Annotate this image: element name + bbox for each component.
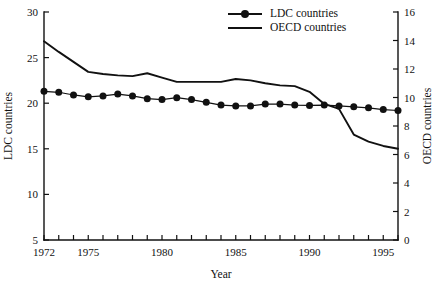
- y-tick-label-right: 8: [404, 120, 410, 132]
- x-tick-label: 1995: [372, 246, 395, 258]
- y-tick-label-left: 5: [33, 234, 39, 246]
- legend-label-oecd: OECD countries: [270, 21, 347, 33]
- x-tick-label: 1975: [77, 246, 100, 258]
- data-point-marker: [173, 94, 180, 101]
- data-point-marker: [350, 103, 357, 110]
- y-axis-title-left: LDC countries: [2, 91, 14, 160]
- axis-titles: LDC countriesOECD countriesYear: [2, 87, 433, 280]
- data-point-marker: [277, 101, 284, 108]
- y-tick-label-right: 0: [404, 234, 410, 246]
- y-tick-label-left: 10: [27, 188, 39, 200]
- data-point-marker: [247, 102, 254, 109]
- chart-legend: LDC countriesOECD countries: [228, 7, 347, 33]
- chart-figure: 5101520253002468101214161972197519801985…: [0, 0, 442, 286]
- x-axis-title: Year: [210, 268, 231, 280]
- data-point-marker: [380, 106, 387, 113]
- data-point-marker: [100, 92, 107, 99]
- legend-label-ldc: LDC countries: [270, 7, 339, 19]
- x-tick-label: 1990: [299, 246, 322, 258]
- data-point-marker: [70, 91, 77, 98]
- data-point-marker: [41, 88, 48, 95]
- y-tick-label-left: 30: [27, 6, 39, 18]
- y-tick-label-right: 10: [404, 92, 416, 104]
- data-point-marker: [395, 107, 402, 114]
- y-tick-label-right: 6: [404, 149, 410, 161]
- legend-marker-ldc-icon: [241, 10, 249, 18]
- data-point-marker: [203, 99, 210, 106]
- data-point-marker: [188, 96, 195, 103]
- axes: [44, 12, 398, 240]
- y-axis-title-right: OECD countries: [421, 87, 433, 164]
- x-tick-label: 1985: [225, 246, 248, 258]
- data-point-marker: [55, 89, 62, 96]
- data-point-marker: [85, 93, 92, 100]
- data-point-marker: [144, 95, 151, 102]
- y-tick-label-right: 4: [404, 177, 410, 189]
- axis-tick-labels: 5101520253002468101214161972197519801985…: [27, 6, 416, 258]
- x-tick-label: 1972: [33, 246, 55, 258]
- y-tick-label-left: 25: [27, 52, 39, 64]
- data-point-marker: [114, 91, 121, 98]
- line-chart: 5101520253002468101214161972197519801985…: [0, 0, 442, 286]
- data-point-marker: [291, 102, 298, 109]
- y-tick-label-right: 14: [404, 35, 416, 47]
- y-tick-label-right: 12: [404, 63, 415, 75]
- data-point-marker: [365, 104, 372, 111]
- data-point-marker: [159, 96, 166, 103]
- data-series: [41, 41, 402, 149]
- data-point-marker: [306, 102, 313, 109]
- y-tick-label-right: 16: [404, 6, 416, 18]
- data-point-marker: [262, 101, 269, 108]
- y-tick-label-left: 20: [27, 97, 39, 109]
- y-tick-label-left: 15: [27, 143, 39, 155]
- x-tick-label: 1980: [151, 246, 174, 258]
- data-point-marker: [129, 92, 136, 99]
- axis-ticks: [44, 12, 398, 240]
- y-tick-label-right: 2: [404, 206, 410, 218]
- series-line-oecd: [44, 41, 398, 149]
- data-point-marker: [232, 102, 239, 109]
- data-point-marker: [218, 102, 225, 109]
